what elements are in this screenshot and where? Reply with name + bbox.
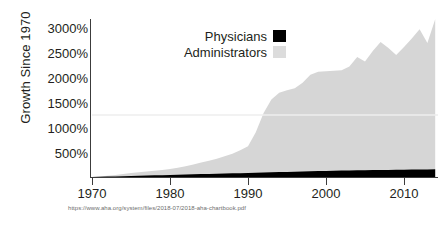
legend-label: Administrators <box>184 46 267 59</box>
series-svg <box>90 0 438 178</box>
legend-swatch-administrators <box>273 46 286 58</box>
x-axis-line <box>90 177 438 178</box>
y-tick-label: 1000% <box>28 122 88 135</box>
x-tick-label: 2010 <box>374 187 434 200</box>
y-tick-label: 2000% <box>28 72 88 85</box>
y-tick-label: 500% <box>28 147 88 160</box>
growth-since-1970-area-chart: Growth Since 1970 500% 1000% 1500% 2000%… <box>0 0 438 228</box>
chart-legend: Physicians Administrators <box>168 29 286 61</box>
x-tick-label: 1970 <box>62 187 122 200</box>
legend-swatch-physicians <box>273 30 286 42</box>
y-tick-label: 3000% <box>28 22 88 35</box>
y-axis-line <box>90 19 91 178</box>
x-tick-label: 2000 <box>296 187 356 200</box>
y-tick-label: 2500% <box>28 47 88 60</box>
x-tick-label: 1990 <box>218 187 278 200</box>
legend-item-administrators: Administrators <box>168 45 286 59</box>
x-axis-tick <box>92 178 93 185</box>
x-axis-tick <box>170 178 171 185</box>
source-url-note: https://www.aha.org/system/files/2018-07… <box>68 204 246 212</box>
legend-item-physicians: Physicians <box>168 29 286 43</box>
x-axis-tick <box>404 178 405 185</box>
y-tick-label: 1500% <box>28 97 88 110</box>
plot-area <box>90 0 438 178</box>
x-axis-tick <box>248 178 249 185</box>
x-tick-label: 1980 <box>140 187 200 200</box>
x-axis-tick <box>326 178 327 185</box>
legend-label: Physicians <box>205 30 267 43</box>
